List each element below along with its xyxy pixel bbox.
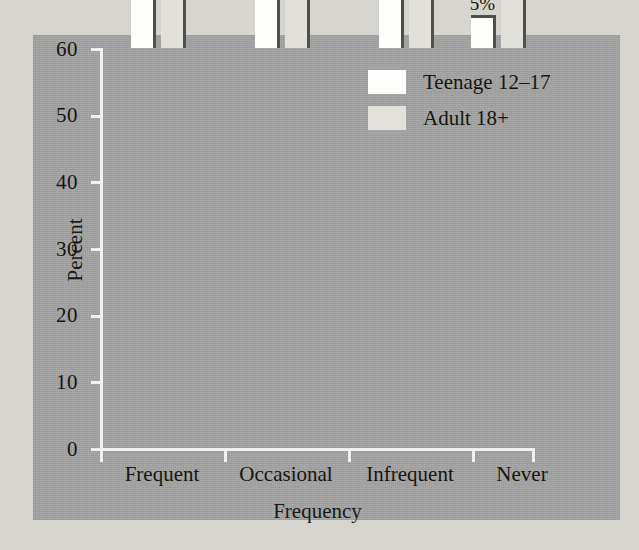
bar-infrequent-teenage[interactable]: 8%	[379, 0, 404, 48]
chart-legend: Teenage 12–17 Adult 18+	[368, 64, 550, 136]
legend-label-teenage: Teenage 12–17	[423, 70, 550, 95]
x-tick-1	[224, 451, 227, 462]
y-tick-label-50: 50	[56, 103, 78, 128]
y-tick-20: 20	[91, 315, 101, 318]
y-tick-30: 30	[91, 248, 101, 251]
y-tick-label-60: 60	[56, 37, 78, 62]
y-tick-label-40: 40	[56, 170, 78, 195]
y-tick-10: 10	[91, 381, 101, 384]
y-tick-label-20: 20	[56, 303, 78, 328]
legend-swatch-teenage-icon	[368, 70, 406, 94]
bar-never-teenage[interactable]: 5%	[471, 15, 496, 48]
bar-occasional-teenage[interactable]: 38%	[255, 0, 280, 48]
x-tick-4	[532, 451, 535, 462]
x-axis-spine	[100, 448, 535, 451]
x-tick-0	[100, 451, 103, 462]
y-tick-label-0: 0	[67, 437, 78, 462]
legend-item-teenage[interactable]: Teenage 12–17	[368, 64, 550, 100]
x-category-label-never: Never	[460, 462, 584, 487]
x-tick-2	[348, 451, 351, 462]
y-tick-60: 60	[91, 48, 101, 51]
legend-swatch-adult-icon	[368, 106, 406, 130]
x-axis-title: Frequency	[100, 499, 535, 524]
y-axis-title: Percent	[63, 218, 88, 281]
bar-occasional-adult[interactable]: 33%	[285, 0, 310, 48]
chart-figure: 60 50 40 30 20 10 0 49% 27%	[33, 35, 620, 520]
bar-label-never-teenage: 5%	[470, 0, 495, 15]
bar-never-adult[interactable]: 28%	[501, 0, 526, 48]
bar-frequent-teenage[interactable]: 49%	[131, 0, 156, 48]
legend-item-adult[interactable]: Adult 18+	[368, 100, 550, 136]
y-tick-label-10: 10	[56, 370, 78, 395]
legend-label-adult: Adult 18+	[423, 106, 509, 131]
bar-frequent-adult[interactable]: 27%	[161, 0, 186, 48]
x-tick-3	[472, 451, 475, 462]
x-category-label-occasional: Occasional	[224, 462, 348, 487]
x-category-label-infrequent: Infrequent	[348, 462, 472, 487]
y-tick-40: 40	[91, 181, 101, 184]
y-tick-50: 50	[91, 115, 101, 118]
bar-infrequent-adult[interactable]: 11%	[409, 0, 434, 48]
x-category-label-frequent: Frequent	[100, 462, 224, 487]
